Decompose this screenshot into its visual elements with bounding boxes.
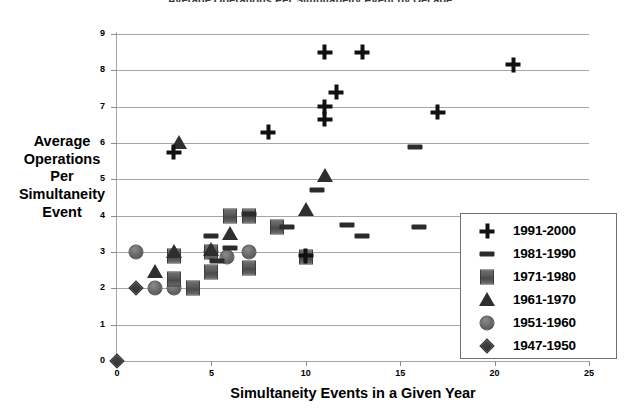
data-point-diamond (109, 353, 125, 369)
legend-key-plus-icon (461, 219, 513, 242)
legend-label: 1991-2000 (513, 223, 576, 238)
x-tick-label: 5 (199, 369, 223, 378)
data-point-plus (506, 57, 521, 72)
y-tick-label: 8 (83, 65, 105, 74)
data-point-square (242, 261, 256, 276)
legend-label: 1947-1950 (513, 338, 576, 353)
legend-label: 1961-1970 (513, 292, 576, 307)
data-point-plus (355, 45, 370, 60)
gridline (117, 361, 589, 362)
legend-item-1961-1970[interactable]: 1961-1970 (461, 288, 616, 311)
y-tick-label: 6 (83, 138, 105, 147)
data-point-dash (310, 188, 325, 193)
y-tick-label: 0 (83, 356, 105, 365)
data-point-plus (317, 112, 332, 127)
x-tick-mark (211, 361, 212, 366)
y-tick-label: 5 (83, 174, 105, 183)
legend-item-1981-1990[interactable]: 1981-1990 (461, 242, 616, 265)
y-tick-label: 3 (83, 247, 105, 256)
data-point-square (167, 272, 181, 287)
data-point-dash (412, 224, 427, 229)
x-tick-mark (589, 361, 590, 366)
y-tick-label: 2 (83, 283, 105, 292)
data-point-dash (408, 144, 423, 149)
data-point-plus (298, 248, 313, 263)
legend-circle-icon (480, 316, 495, 331)
chart-title: Average Operations Per Simultaneity Even… (60, 0, 560, 2)
legend-diamond-icon (479, 338, 495, 354)
x-axis-title: Simultaneity Events in a Given Year (117, 385, 589, 401)
legend-square-icon (480, 270, 494, 285)
data-point-dash (279, 224, 294, 229)
legend-triangle-icon (479, 292, 495, 306)
data-point-square (186, 281, 200, 296)
scatter-chart: Average Operations Per Simultaneity Even… (0, 0, 627, 417)
data-point-triangle (147, 264, 163, 278)
legend-label: 1971-1980 (513, 269, 576, 284)
data-point-dash (223, 246, 238, 251)
data-point-triangle (222, 226, 238, 240)
data-point-plus (430, 105, 445, 120)
data-point-square (204, 264, 218, 279)
legend-key-triangle-icon (461, 288, 513, 311)
legend-key-square-icon (461, 265, 513, 288)
x-tick-label: 25 (577, 369, 601, 378)
data-point-dash (210, 259, 225, 264)
legend-key-diamond-icon (461, 334, 513, 357)
data-point-triangle (317, 168, 333, 182)
legend-item-1971-1980[interactable]: 1971-1980 (461, 265, 616, 288)
data-point-dash (355, 233, 370, 238)
data-point-circle (128, 245, 143, 260)
x-tick-mark (495, 361, 496, 366)
data-point-plus (261, 125, 276, 140)
legend-plus-icon (480, 224, 495, 239)
data-point-dash (204, 233, 219, 238)
data-point-circle (242, 245, 257, 260)
legend-key-circle-icon (461, 311, 513, 334)
data-point-dash (340, 222, 355, 227)
legend-item-1951-1960[interactable]: 1951-1960 (461, 311, 616, 334)
y-tick-label: 1 (83, 320, 105, 329)
x-tick-label: 20 (483, 369, 507, 378)
data-point-circle (147, 281, 162, 296)
data-point-diamond (128, 281, 144, 297)
x-tick-label: 10 (294, 369, 318, 378)
y-tick-label: 7 (83, 102, 105, 111)
legend-dash-icon (480, 252, 495, 257)
legend-item-1947-1950[interactable]: 1947-1950 (461, 334, 616, 357)
y-tick-label: 4 (83, 211, 105, 220)
x-tick-label: 15 (388, 369, 412, 378)
x-tick-mark (400, 361, 401, 366)
data-point-triangle (298, 202, 314, 216)
legend-label: 1981-1990 (513, 246, 576, 261)
data-point-square (223, 208, 237, 223)
x-tick-label: 0 (105, 369, 129, 378)
legend-label: 1951-1960 (513, 315, 576, 330)
data-point-dash (242, 211, 257, 216)
data-point-triangle (203, 242, 219, 256)
legend-item-1991-2000[interactable]: 1991-2000 (461, 219, 616, 242)
data-point-plus (317, 45, 332, 60)
data-point-plus (166, 145, 181, 160)
x-tick-mark (306, 361, 307, 366)
y-tick-label: 9 (83, 29, 105, 38)
data-point-plus (329, 85, 344, 100)
data-point-triangle (166, 244, 182, 258)
chart-legend: 1991-20001981-19901971-19801961-19701951… (460, 213, 617, 359)
legend-key-dash-icon (461, 242, 513, 265)
